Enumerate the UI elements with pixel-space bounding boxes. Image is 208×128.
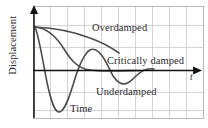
curve-label-underdamped: Underdamped — [96, 87, 157, 98]
y-axis-label-displacement: Displacement — [8, 7, 19, 83]
damped-oscillation-figure: Overdamped Critically damped Underdamped… — [0, 0, 208, 128]
curve-label-critically-damped: Critically damped — [107, 56, 184, 67]
x-axis-symbol-t: t — [190, 73, 193, 83]
x-axis-label-time: Time — [70, 104, 92, 115]
curve-label-overdamped: Overdamped — [92, 23, 147, 34]
